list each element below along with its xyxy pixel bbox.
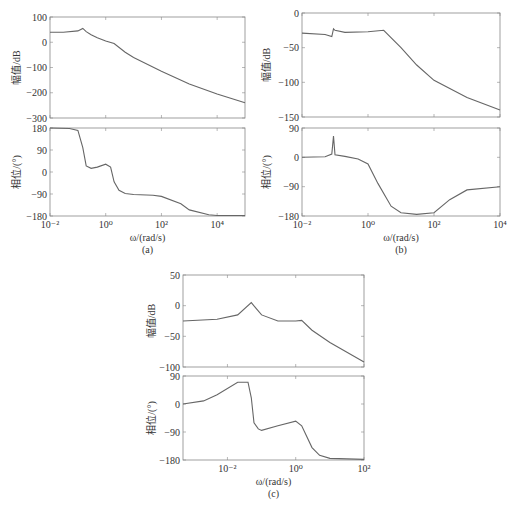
x-tick-label: 10⁰: [289, 463, 303, 474]
x-tick-label: 10⁻²: [293, 219, 311, 230]
y-axis-label: 幅值/dB: [260, 47, 272, 82]
plot-frame-b-magnitude: [302, 13, 500, 117]
curve-b-phase: [302, 136, 500, 214]
y-axis-label: 相位/(°): [10, 155, 23, 188]
y-tick-label: 180: [32, 123, 47, 134]
y-tick-label: 0: [294, 152, 299, 163]
figure-caption: (c): [268, 488, 279, 500]
y-tick-label: −50: [164, 331, 180, 342]
x-axis-label: ω/(rad/s): [130, 232, 165, 244]
curve-a-magnitude: [50, 28, 245, 102]
plot-frame-a-phase: [50, 128, 245, 216]
y-tick-label: 0: [175, 399, 180, 410]
y-tick-label: −100: [278, 77, 299, 88]
y-tick-label: −90: [31, 189, 47, 200]
figure-caption: (b): [395, 244, 407, 256]
y-tick-label: 90: [37, 145, 47, 156]
y-tick-label: 0: [294, 8, 299, 19]
y-tick-label: 90: [289, 123, 299, 134]
x-tick-label: 10²: [428, 219, 441, 230]
y-tick-label: −100: [26, 62, 47, 73]
y-tick-label: −50: [283, 42, 299, 53]
y-axis-label: 相位/(°): [260, 155, 273, 188]
y-axis-label: 相位/(°): [145, 401, 158, 434]
curve-a-phase: [50, 128, 245, 216]
y-tick-label: 90: [170, 371, 180, 382]
bode-plots-figure: 1000−100−200−300幅值/dB180900−90−180相位/(°)…: [0, 0, 516, 506]
plot-frame-c-phase: [183, 376, 364, 460]
figure-caption: (a): [142, 244, 153, 256]
y-tick-label: −150: [278, 112, 299, 123]
plot-frame-a-magnitude: [50, 17, 245, 118]
x-tick-label: 10⁻²: [218, 463, 236, 474]
y-tick-label: 0: [42, 37, 47, 48]
x-axis-label: ω/(rad/s): [383, 232, 418, 244]
x-tick-label: 10²: [155, 219, 168, 230]
y-tick-label: 50: [170, 270, 180, 281]
plot-frame-b-phase: [302, 128, 500, 216]
y-axis-label: 幅值/dB: [10, 50, 22, 85]
x-tick-label: 10⁻²: [41, 219, 59, 230]
x-tick-label: 10⁰: [361, 219, 375, 230]
x-tick-label: 10⁰: [99, 219, 113, 230]
y-axis-label: 幅值/dB: [145, 303, 157, 338]
curve-b-magnitude: [302, 29, 500, 110]
y-tick-label: −200: [26, 87, 47, 98]
plot-frame-c-magnitude: [183, 275, 364, 367]
x-tick-label: 10²: [358, 463, 371, 474]
y-tick-label: 0: [175, 300, 180, 311]
x-axis-label: ω/(rad/s): [256, 476, 291, 488]
curve-c-phase: [183, 382, 364, 459]
y-tick-label: −90: [283, 181, 299, 192]
y-tick-label: −180: [159, 455, 180, 466]
x-tick-label: 10⁴: [493, 219, 507, 230]
x-tick-label: 10⁴: [210, 219, 224, 230]
curve-c-magnitude: [183, 303, 364, 363]
y-tick-label: 100: [32, 12, 47, 23]
y-tick-label: −90: [164, 427, 180, 438]
y-tick-label: 0: [42, 167, 47, 178]
